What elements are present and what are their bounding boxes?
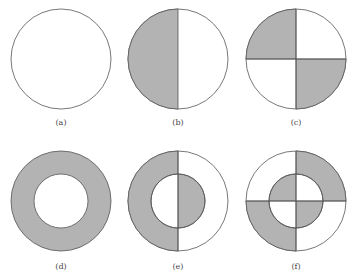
panel-c-diagram: [246, 9, 346, 109]
panel-f-diagram: [246, 151, 346, 251]
panel-c-label: (c): [291, 118, 302, 127]
panel-a-diagram: [11, 9, 111, 109]
panel-b-label: (b): [172, 118, 183, 127]
figure-canvas: (a) (b) (c) (d) (e) (f): [0, 0, 355, 278]
panel-d-label: (d): [55, 262, 66, 271]
panel-e-label: (e): [173, 262, 184, 271]
panel-f-label: (f): [291, 262, 300, 271]
panel-b-diagram: [128, 9, 228, 109]
panel-a-label: (a): [55, 118, 66, 127]
panel-e-diagram: [128, 151, 228, 251]
panel-d-diagram: [11, 151, 111, 251]
